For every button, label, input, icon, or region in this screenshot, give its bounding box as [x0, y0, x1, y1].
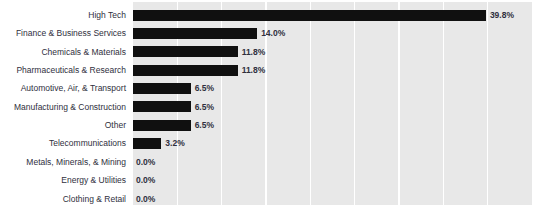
bar: [133, 83, 191, 94]
bar-value-label: 11.8%: [242, 43, 266, 61]
category-label: Clothing & Retail: [63, 190, 126, 208]
chart-row: Chemicals & Materials11.8%: [0, 43, 539, 61]
bar-value-label: 3.2%: [165, 134, 184, 152]
bar-value-label: 0.0%: [136, 190, 155, 208]
category-label: Manufacturing & Construction: [14, 98, 126, 116]
bar-value-label: 14.0%: [261, 24, 285, 42]
chart-row: Automotive, Air, & Transport6.5%: [0, 79, 539, 97]
category-label: Pharmaceuticals & Research: [16, 61, 126, 79]
category-label: Automotive, Air, & Transport: [21, 79, 126, 97]
category-label: High Tech: [88, 6, 126, 24]
bar-value-label: 0.0%: [136, 171, 155, 189]
chart-row: Energy & Utilities0.0%: [0, 171, 539, 189]
category-label: Energy & Utilities: [61, 171, 126, 189]
bar-value-label: 6.5%: [195, 116, 214, 134]
chart-row: Other6.5%: [0, 116, 539, 134]
bar: [133, 10, 486, 21]
bar: [133, 65, 238, 76]
category-label: Finance & Business Services: [16, 24, 126, 42]
chart-row: High Tech39.8%: [0, 6, 539, 24]
bar-value-label: 6.5%: [195, 79, 214, 97]
bar-value-label: 6.5%: [195, 98, 214, 116]
chart-row: Telecommunications3.2%: [0, 134, 539, 152]
chart-row: Clothing & Retail0.0%: [0, 190, 539, 208]
category-label: Metals, Minerals, & Mining: [26, 153, 126, 171]
bar: [133, 138, 161, 149]
chart-row: Metals, Minerals, & Mining0.0%: [0, 153, 539, 171]
bar-value-label: 39.8%: [490, 6, 514, 24]
chart-row: Pharmaceuticals & Research11.8%: [0, 61, 539, 79]
category-label: Chemicals & Materials: [41, 43, 126, 61]
bar: [133, 46, 238, 57]
bar: [133, 101, 191, 112]
chart-row: Finance & Business Services14.0%: [0, 24, 539, 42]
bar: [133, 28, 257, 39]
category-label: Telecommunications: [49, 134, 126, 152]
bar-chart: High Tech39.8%Finance & Business Service…: [0, 0, 539, 221]
bar-value-label: 11.8%: [242, 61, 266, 79]
bar: [133, 120, 191, 131]
bar-value-label: 0.0%: [136, 153, 155, 171]
category-label: Other: [105, 116, 126, 134]
chart-row: Manufacturing & Construction6.5%: [0, 98, 539, 116]
